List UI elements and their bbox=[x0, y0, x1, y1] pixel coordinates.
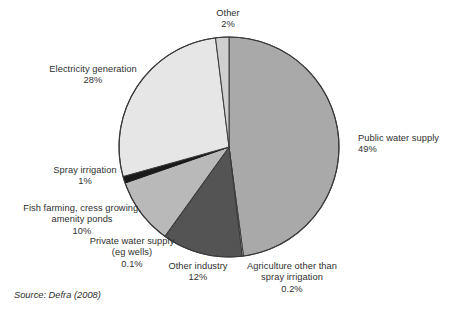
pie-label-fish-farming-name-1: Fish farming, cress growing, bbox=[8, 203, 156, 214]
pie-label-agriculture-name-1: Agriculture other than bbox=[228, 261, 356, 272]
pie-label-agriculture: Agriculture other than spray irrigation … bbox=[228, 261, 356, 295]
pie-label-public-water-supply: Public water supply 49% bbox=[358, 133, 459, 156]
pie-label-spray-irrigation: Spray irrigation 1% bbox=[30, 165, 140, 188]
pie-label-fish-farming-name-2: amenity ponds bbox=[8, 214, 156, 225]
pie-label-agriculture-name-2: spray irrigation bbox=[228, 272, 356, 283]
pie-label-private-water-supply-name-1: Private water supply bbox=[62, 236, 202, 247]
pie-label-electricity-generation: Electricity generation 28% bbox=[28, 64, 158, 87]
pie-label-public-water-supply-value: 49% bbox=[358, 144, 459, 155]
pie-label-public-water-supply-name: Public water supply bbox=[358, 133, 459, 144]
pie-label-electricity-generation-name: Electricity generation bbox=[28, 64, 158, 75]
pie-label-electricity-generation-value: 28% bbox=[28, 75, 158, 86]
pie-label-other-name: Other bbox=[178, 8, 278, 19]
pie-label-other: Other 2% bbox=[178, 8, 278, 31]
pie-label-agriculture-value: 0.2% bbox=[228, 284, 356, 295]
pie-chart-figure: Other 2% Electricity generation 28% Publ… bbox=[0, 0, 459, 311]
source-note: Source: Defra (2008) bbox=[14, 290, 101, 300]
pie-label-private-water-supply-name-2: (eg wells) bbox=[62, 247, 202, 258]
pie-label-other-value: 2% bbox=[178, 19, 278, 30]
pie-label-spray-irrigation-name: Spray irrigation bbox=[30, 165, 140, 176]
pie-label-fish-farming: Fish farming, cress growing, amenity pon… bbox=[8, 203, 156, 237]
pie-slice-public-water-supply[interactable] bbox=[229, 37, 339, 256]
pie-label-spray-irrigation-value: 1% bbox=[30, 176, 140, 187]
